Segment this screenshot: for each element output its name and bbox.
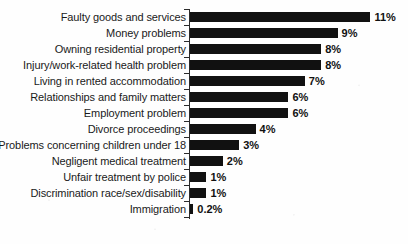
category-label: Negligent medical treatment [52,153,186,169]
bar [190,188,206,198]
axis-tick [184,89,190,90]
value-label: 3% [243,140,259,150]
bar [190,44,321,54]
bar-and-value: 9% [190,25,358,41]
bar-and-value: 2% [190,153,243,169]
bar-and-value: 1% [190,185,226,201]
category-label: Money problems [106,25,186,41]
value-label: 11% [374,12,395,22]
bar [190,172,206,182]
bar-and-value: 7% [190,73,325,89]
axis-tick [184,201,190,202]
value-label: 8% [325,44,341,54]
bar-and-value: 11% [190,9,396,25]
value-label: 8% [325,60,341,70]
bar-row: Living in rented accommodation7% [0,73,408,89]
value-label: 4% [260,124,276,134]
bar-row: Unfair treatment by police1% [0,169,408,185]
category-label: Employment problem [84,105,186,121]
bar-chart: Faulty goods and services11%Money proble… [0,0,408,244]
axis-tick [184,153,190,154]
axis-tick [184,9,190,10]
value-label: 0.2% [197,204,222,214]
value-label: 1% [210,188,226,198]
category-label: Living in rented accommodation [34,73,186,89]
bar-and-value: 0.2% [190,201,222,217]
bar [190,28,338,38]
axis-tick [184,57,190,58]
bar-and-value: 8% [190,41,341,57]
category-label: Relationships and family matters [30,89,186,105]
value-label: 6% [292,108,308,118]
axis-tick [184,41,190,42]
bar-row: Immigration0.2% [0,201,408,217]
bar [190,12,370,22]
bar-row: Negligent medical treatment2% [0,153,408,169]
bar-row: Money problems9% [0,25,408,41]
value-label: 6% [292,92,308,102]
bar-row: Injury/work-related health problem8% [0,57,408,73]
bar-row: Faulty goods and services11% [0,9,408,25]
axis-tick [184,25,190,26]
bar [190,108,288,118]
axis-tick [184,121,190,122]
category-label: Faulty goods and services [61,9,186,25]
bar [190,124,256,134]
bar [190,156,223,166]
bar-and-value: 6% [190,105,308,121]
category-label: Discrimination race/sex/disability [30,185,186,201]
category-label: Unfair treatment by police [63,169,186,185]
value-label: 2% [227,156,243,166]
bar-row: Relationships and family matters6% [0,89,408,105]
bar-row: Employment problem6% [0,105,408,121]
bar-and-value: 1% [190,169,226,185]
axis-tick [184,73,190,74]
bar-row: Divorce proceedings4% [0,121,408,137]
bar-and-value: 6% [190,89,308,105]
bar-row: Discrimination race/sex/disability1% [0,185,408,201]
axis-tick [184,217,190,218]
bar-row: Owning residential property8% [0,41,408,57]
category-label: Problems concerning children under 18 [0,137,186,153]
category-label: Divorce proceedings [88,121,186,137]
bar-and-value: 3% [190,137,259,153]
value-label: 7% [309,76,325,86]
bar-and-value: 4% [190,121,276,137]
bar-row: Problems concerning children under 183% [0,137,408,153]
category-label: Injury/work-related health problem [23,57,186,73]
axis-tick [184,105,190,106]
bar [190,204,193,214]
axis-tick [184,169,190,170]
bar [190,140,239,150]
bar-and-value: 8% [190,57,341,73]
axis-tick [184,137,190,138]
bar [190,60,321,70]
axis-tick [184,185,190,186]
bar [190,92,288,102]
bar-rows-container: Faulty goods and services11%Money proble… [0,9,408,217]
category-label: Owning residential property [55,41,186,57]
category-label: Immigration [130,201,186,217]
bar [190,76,305,86]
value-label: 1% [210,172,226,182]
value-label: 9% [342,28,358,38]
